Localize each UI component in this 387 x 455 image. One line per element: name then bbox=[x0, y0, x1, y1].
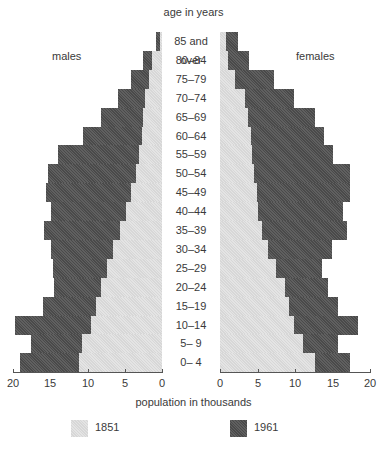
age-group-label: 35–39 bbox=[162, 221, 220, 240]
bar-female-1851 bbox=[220, 108, 248, 127]
bar-female-1961 bbox=[258, 202, 343, 221]
x-tick-label: 20 bbox=[360, 377, 380, 389]
x-axis-label: population in thousands bbox=[0, 396, 387, 408]
age-group-label: 65–69 bbox=[162, 108, 220, 127]
bar-female-1961 bbox=[294, 316, 358, 335]
x-tick bbox=[162, 369, 163, 373]
bar-female-1851 bbox=[220, 221, 262, 240]
bar-male-1961 bbox=[53, 259, 107, 278]
bar-female-1851 bbox=[220, 51, 228, 70]
bar-male-1851 bbox=[139, 145, 162, 164]
x-tick-label: 15 bbox=[323, 377, 343, 389]
bar-male-1961 bbox=[143, 51, 152, 70]
x-tick-label: 5 bbox=[115, 377, 135, 389]
age-group-label: 50–54 bbox=[162, 164, 220, 183]
bar-male-1961 bbox=[48, 164, 136, 183]
x-tick bbox=[88, 369, 89, 373]
legend-label-1851: 1851 bbox=[95, 421, 119, 433]
x-tick-label: 5 bbox=[248, 377, 268, 389]
bar-male-1961 bbox=[101, 108, 143, 127]
age-group-label: 55–59 bbox=[162, 145, 220, 164]
bar-male-1851 bbox=[107, 259, 162, 278]
bar-female-1961 bbox=[251, 127, 325, 146]
age-group-label: 20–24 bbox=[162, 278, 220, 297]
legend-swatch-1961 bbox=[230, 420, 247, 437]
bar-female-1961 bbox=[235, 70, 274, 89]
x-tick bbox=[220, 369, 221, 373]
bar-female-1851 bbox=[220, 89, 245, 108]
bar-male-1851 bbox=[143, 108, 162, 127]
x-tick-label: 10 bbox=[285, 377, 305, 389]
bar-male-1961 bbox=[131, 70, 150, 89]
age-group-label: 30–34 bbox=[162, 240, 220, 259]
bar-male-1851 bbox=[101, 278, 162, 297]
x-tick bbox=[370, 369, 371, 373]
x-tick bbox=[125, 369, 126, 373]
bar-female-1851 bbox=[220, 145, 252, 164]
bar-female-1851 bbox=[220, 259, 276, 278]
bar-male-1961 bbox=[83, 127, 142, 146]
bar-male-1961 bbox=[118, 89, 145, 108]
bar-male-1961 bbox=[43, 297, 96, 316]
bar-male-1851 bbox=[149, 70, 162, 89]
bar-female-1961 bbox=[268, 240, 332, 259]
bar-female-1851 bbox=[220, 70, 235, 89]
bar-female-1961 bbox=[248, 108, 315, 127]
age-group-label: 10–14 bbox=[162, 316, 220, 335]
bar-female-1961 bbox=[257, 183, 351, 202]
bar-male-1961 bbox=[46, 183, 131, 202]
bar-female-1961 bbox=[289, 297, 338, 316]
bar-female-1961 bbox=[262, 221, 346, 240]
legend-swatch-1851 bbox=[71, 420, 88, 437]
bar-female-1961 bbox=[226, 32, 238, 51]
bar-female-1961 bbox=[285, 278, 328, 297]
bar-male-1851 bbox=[120, 221, 162, 240]
age-group-label: 80–84 bbox=[162, 51, 220, 70]
bar-female-1851 bbox=[220, 297, 289, 316]
age-group-label: 15–19 bbox=[162, 297, 220, 316]
x-tick bbox=[13, 369, 14, 373]
bar-male-1961 bbox=[51, 202, 126, 221]
bar-male-1961 bbox=[54, 278, 101, 297]
age-group-label: 70–74 bbox=[162, 89, 220, 108]
age-group-label: 40–44 bbox=[162, 202, 220, 221]
bar-female-1851 bbox=[220, 334, 303, 353]
bar-female-1961 bbox=[245, 89, 294, 108]
bar-female-1851 bbox=[220, 353, 315, 372]
bar-female-1961 bbox=[228, 51, 249, 70]
x-tick bbox=[258, 369, 259, 373]
age-group-label: 75–79 bbox=[162, 70, 220, 89]
age-group-label: 0– 4 bbox=[162, 353, 220, 372]
age-group-label: 5– 9 bbox=[162, 334, 220, 353]
x-tick-label: 15 bbox=[40, 377, 60, 389]
age-group-label: 60–64 bbox=[162, 127, 220, 146]
bar-male-1851 bbox=[152, 51, 162, 70]
x-tick-label: 0 bbox=[152, 377, 172, 389]
bar-female-1961 bbox=[303, 334, 339, 353]
males-label: males bbox=[52, 50, 81, 62]
bar-male-1851 bbox=[79, 353, 162, 372]
chart-title: age in years bbox=[0, 6, 387, 18]
bar-male-1851 bbox=[126, 202, 162, 221]
bar-male-1851 bbox=[113, 240, 162, 259]
females-label: females bbox=[296, 50, 335, 62]
bar-male-1851 bbox=[131, 183, 162, 202]
bar-female-1961 bbox=[276, 259, 322, 278]
bar-male-1851 bbox=[136, 164, 162, 183]
bar-female-1851 bbox=[220, 278, 285, 297]
bar-male-1961 bbox=[58, 145, 139, 164]
bar-male-1851 bbox=[145, 89, 162, 108]
age-group-label: 45–49 bbox=[162, 183, 220, 202]
bar-male-1961 bbox=[51, 240, 113, 259]
x-tick bbox=[295, 369, 296, 373]
x-tick bbox=[333, 369, 334, 373]
bar-female-1851 bbox=[220, 183, 257, 202]
bar-female-1851 bbox=[220, 240, 268, 259]
bar-female-1961 bbox=[254, 164, 351, 183]
bar-male-1851 bbox=[82, 334, 162, 353]
bar-female-1851 bbox=[220, 164, 254, 183]
bar-female-1851 bbox=[220, 127, 251, 146]
bar-male-1961 bbox=[31, 334, 82, 353]
bar-male-1851 bbox=[96, 297, 162, 316]
bar-male-1961 bbox=[44, 221, 120, 240]
